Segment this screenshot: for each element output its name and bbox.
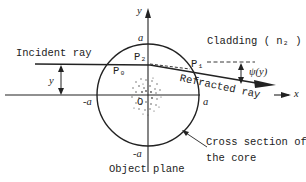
a-right-label: a <box>203 97 208 108</box>
object-plane-dots <box>131 77 161 115</box>
x-axis-label: x <box>294 89 299 100</box>
incident-ray-label: Incident ray <box>16 48 92 59</box>
a-left-label: -a <box>83 97 92 108</box>
y-height-label: y <box>49 76 54 87</box>
fiber-refraction-diagram: Incident ray Refracted ray Cladding ( n₂… <box>0 0 306 182</box>
a-top-label: a <box>138 33 143 44</box>
cross-section-pointer <box>182 130 207 147</box>
y-axis <box>145 8 151 172</box>
cladding-label: Cladding ( n₂ ) <box>207 36 302 47</box>
y-height-arrow <box>58 65 64 95</box>
x-axis-arrow-icon <box>281 92 291 98</box>
incident-ray-line <box>35 64 150 65</box>
object-plane-label: Object plane <box>109 164 185 175</box>
psi-label: ψ(y) <box>249 67 267 78</box>
p1-label: P₁ <box>191 59 204 70</box>
p0-label: P₀ <box>113 66 126 77</box>
origin-label: O <box>137 97 143 108</box>
y-axis-arrow-icon <box>145 8 151 18</box>
a-bottom-label: -a <box>133 149 142 160</box>
y-axis-label: y <box>137 6 142 17</box>
refracted-ray-arrow-icon <box>254 80 276 88</box>
cross-section-label-line2: the core <box>206 153 256 164</box>
p2-label: P₂ <box>134 52 147 63</box>
cross-section-label-line1: Cross section of <box>206 137 306 148</box>
